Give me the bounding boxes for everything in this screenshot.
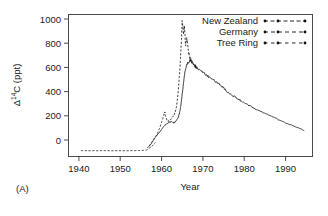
x-tick-label: 1980 <box>234 163 255 174</box>
chart-svg: 1000 800 600 400 200 0 Δ14C (ppt) 1940 1… <box>0 0 328 216</box>
y-tick-label: 200 <box>45 110 61 121</box>
legend-item-germany-label: Germany <box>219 26 258 37</box>
x-tick-label: 1940 <box>68 163 89 174</box>
figure-panel-a: 1000 800 600 400 200 0 Δ14C (ppt) 1940 1… <box>0 0 328 216</box>
y-tick-label: 600 <box>45 62 61 73</box>
y-tick-label: 800 <box>45 38 61 49</box>
x-axis-title: Year <box>180 181 199 192</box>
panel-label: (A) <box>16 183 29 194</box>
y-tick-label: 1000 <box>40 14 61 25</box>
legend-item-new-zealand-label: New Zealand <box>202 15 258 26</box>
y-tick-label: 400 <box>45 86 61 97</box>
y-tick-label: 0 <box>56 135 61 146</box>
y-axis-title-rest: C (ppt) <box>11 64 22 93</box>
x-tick-label: 1970 <box>192 163 213 174</box>
x-tick-label: 1950 <box>110 163 131 174</box>
x-tick-label: 1990 <box>275 163 296 174</box>
x-tick-label: 1960 <box>151 163 172 174</box>
legend-item-tree-ring-label: Tree Ring <box>217 37 258 48</box>
